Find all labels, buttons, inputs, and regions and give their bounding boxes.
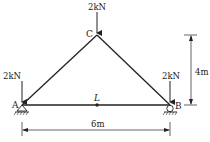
- midpoint-label: L: [93, 93, 100, 103]
- midpoint-dot: [95, 103, 98, 106]
- load-label-c: 2kN: [88, 2, 107, 12]
- dimension-label-height: 4m: [195, 67, 208, 77]
- node-label-b: B: [175, 101, 182, 111]
- member-ac: [22, 35, 97, 105]
- member-cb: [97, 35, 170, 105]
- node-label-c: C: [86, 29, 93, 39]
- node-label-a: A: [11, 100, 19, 110]
- load-label-b: 2kN: [162, 71, 181, 81]
- dimension-label-span: 6m: [91, 119, 104, 129]
- load-label-a: 2kN: [3, 71, 22, 81]
- truss-diagram: L A B C 2kN 2kN: [0, 0, 210, 142]
- dimension-height: 4m: [184, 35, 208, 105]
- load-a: 2kN: [3, 71, 22, 102]
- load-b: 2kN: [162, 71, 181, 102]
- dimension-span: 6m: [22, 119, 170, 136]
